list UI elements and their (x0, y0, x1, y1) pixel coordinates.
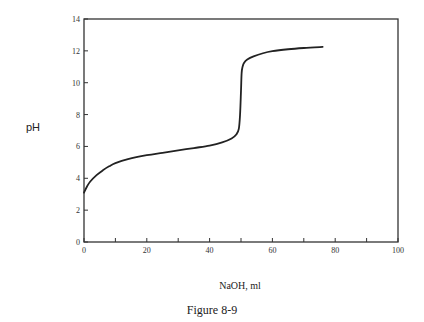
titration-chart: 02040608010002468101214 pH NaOH, ml Figu… (0, 0, 424, 322)
x-tick-label: 20 (143, 246, 151, 255)
figure-caption: Figure 8-9 (187, 303, 237, 317)
y-tick-label: 0 (76, 238, 80, 247)
y-tick-label: 6 (76, 142, 80, 151)
x-tick-label: 0 (82, 246, 86, 255)
y-tick-label: 10 (72, 79, 80, 88)
x-tick-label: 40 (206, 246, 214, 255)
y-axis-label: pH (26, 121, 40, 133)
plot-frame (84, 19, 398, 242)
titration-curve-line (84, 47, 323, 193)
y-tick-label: 8 (76, 111, 80, 120)
y-tick-label: 12 (72, 47, 80, 56)
x-tick-label: 80 (331, 246, 339, 255)
x-tick-label: 60 (268, 246, 276, 255)
x-axis-label: NaOH, ml (219, 280, 261, 291)
x-tick-label: 100 (392, 246, 404, 255)
y-tick-label: 2 (76, 206, 80, 215)
y-tick-label: 14 (72, 15, 80, 24)
y-tick-label: 4 (76, 174, 80, 183)
